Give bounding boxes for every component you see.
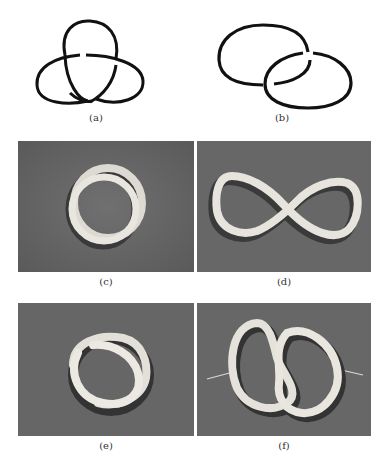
trefoil-knot-drawing [30, 15, 155, 110]
caption-b: (b) [262, 112, 302, 123]
caption-c: (c) [86, 276, 126, 287]
caption-f: (f) [264, 440, 304, 451]
panel-f-photo-knotted-loop [197, 303, 371, 436]
panel-a-trefoil-knot [30, 15, 155, 110]
knotted-double-loop-tube [197, 303, 371, 436]
panel-e-photo-twisted-loop [18, 303, 194, 436]
panel-b-hopf-link [213, 20, 358, 112]
figure-eight-tube [197, 141, 371, 272]
caption-e: (e) [86, 440, 126, 451]
hopf-link-drawing [213, 20, 358, 112]
twisted-loop-tube [18, 303, 194, 436]
caption-d: (d) [264, 276, 304, 287]
double-coil-tube [18, 141, 194, 272]
panel-c-photo-double-coil [18, 141, 194, 272]
panel-d-photo-figure-eight [197, 141, 371, 272]
caption-a: (a) [76, 112, 116, 123]
